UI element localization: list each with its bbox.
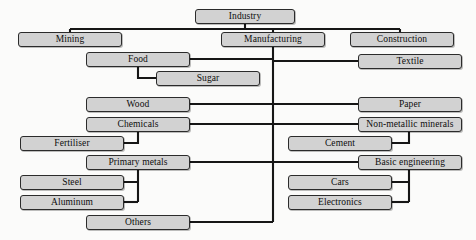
node-electronics[interactable]: Electronics — [288, 195, 392, 210]
node-paper[interactable]: Paper — [358, 97, 462, 112]
node-chemicals[interactable]: Chemicals — [86, 117, 190, 132]
node-manufacturing[interactable]: Manufacturing — [221, 32, 325, 47]
node-label-steel: Steel — [59, 178, 85, 188]
node-aluminum[interactable]: Aluminum — [20, 195, 124, 210]
node-label-textile: Textile — [394, 57, 427, 67]
connector-food-to-sugar — [138, 67, 156, 78]
node-label-primary_metals: Primary metals — [105, 158, 170, 168]
node-sugar[interactable]: Sugar — [156, 71, 260, 86]
node-label-cars: Cars — [328, 178, 352, 188]
node-wood[interactable]: Wood — [86, 97, 190, 112]
node-label-basic_engineering: Basic engineering — [372, 158, 448, 168]
node-label-cement: Cement — [322, 139, 358, 149]
node-primary_metals[interactable]: Primary metals — [86, 155, 190, 170]
connector-primary_metals-to-steel — [124, 170, 138, 202]
node-label-construction: Construction — [374, 35, 430, 45]
node-label-industry: Industry — [226, 12, 264, 22]
node-cement[interactable]: Cement — [288, 136, 392, 151]
node-textile[interactable]: Textile — [358, 54, 462, 69]
node-label-mining: Mining — [53, 35, 88, 45]
node-cars[interactable]: Cars — [288, 175, 392, 190]
connector-non_metallic-to-cement — [392, 132, 409, 143]
node-label-manufacturing: Manufacturing — [241, 35, 305, 45]
node-food[interactable]: Food — [86, 52, 190, 67]
node-label-others: Others — [122, 218, 154, 228]
connector-basic_engineering-to-cars — [392, 170, 409, 202]
node-label-fertiliser: Fertiliser — [51, 139, 92, 149]
node-label-sugar: Sugar — [194, 74, 223, 84]
connector-industry-to-mining — [70, 24, 400, 32]
node-label-aluminum: Aluminum — [48, 198, 96, 208]
node-label-food: Food — [125, 55, 151, 65]
node-industry[interactable]: Industry — [195, 9, 295, 24]
connector-chemicals-to-fertiliser — [124, 132, 138, 143]
node-label-electronics: Electronics — [315, 198, 365, 208]
node-construction[interactable]: Construction — [350, 32, 454, 47]
node-label-wood: Wood — [124, 100, 153, 110]
node-steel[interactable]: Steel — [20, 175, 124, 190]
node-label-chemicals: Chemicals — [114, 120, 161, 130]
node-mining[interactable]: Mining — [18, 32, 122, 47]
node-label-non_metallic: Non-metallic minerals — [363, 120, 456, 130]
industry-classification-diagram: IndustryMiningManufacturingConstructionF… — [0, 0, 476, 240]
node-others[interactable]: Others — [86, 215, 190, 230]
node-basic_engineering[interactable]: Basic engineering — [358, 155, 462, 170]
node-label-paper: Paper — [396, 100, 424, 110]
node-fertiliser[interactable]: Fertiliser — [20, 136, 124, 151]
node-non_metallic[interactable]: Non-metallic minerals — [358, 117, 462, 132]
